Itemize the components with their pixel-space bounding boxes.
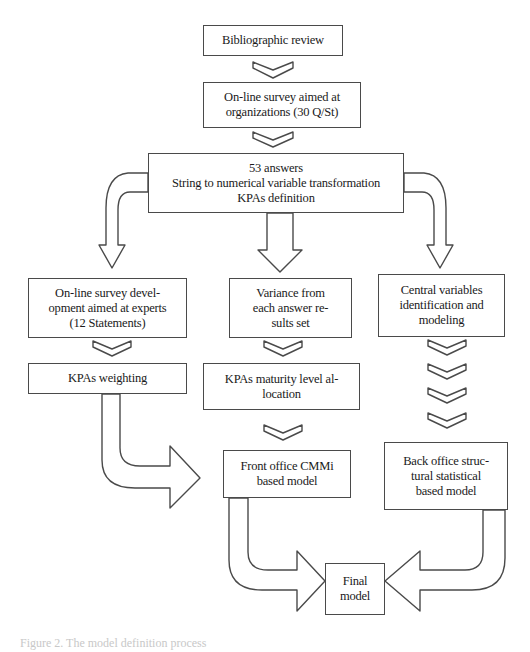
- node-kpas-weighting: KPAs weighting: [28, 363, 187, 394]
- chevron-down-icon: [428, 364, 466, 379]
- node-answers-processing: 53 answers String to numerical variable …: [148, 153, 404, 213]
- node-final-model: Final model: [325, 563, 385, 615]
- chevron-down-icon: [253, 132, 293, 147]
- node-online-survey-experts: On-line survey devel- opment aimed at ex…: [28, 278, 187, 338]
- node-bibliographic-review: Bibliographic review: [203, 25, 343, 56]
- node-front-office-model: Front office CMMi based model: [223, 450, 351, 498]
- curved-arrow-down-left-icon: [99, 173, 148, 268]
- chevron-down-icon: [93, 341, 131, 356]
- chevron-down-icon: [253, 62, 293, 78]
- curved-arrow-right-icon: [229, 498, 325, 611]
- curved-arrow-down-right-icon: [404, 173, 453, 268]
- chevron-down-icon: [264, 425, 302, 440]
- node-kpas-maturity: KPAs maturity level al- location: [203, 363, 360, 410]
- chevron-down-icon: [428, 340, 466, 355]
- chevron-down-icon: [264, 341, 302, 356]
- node-online-survey-organizations: On-line survey aimed at organizations (3…: [203, 82, 361, 128]
- curved-arrow-left-icon: [385, 510, 505, 611]
- figure-caption: Figure 2. The model definition process: [20, 636, 206, 651]
- curved-arrow-right-icon: [102, 394, 200, 508]
- chevron-down-icon: [428, 413, 466, 428]
- node-variance: Variance from each answer re- sults set: [229, 278, 352, 338]
- node-central-variables: Central variables identification and mod…: [378, 274, 505, 337]
- node-back-office-model: Back office struc- tural statistical bas…: [384, 442, 508, 510]
- arrow-down-icon: [258, 213, 302, 272]
- chevron-down-icon: [428, 388, 466, 403]
